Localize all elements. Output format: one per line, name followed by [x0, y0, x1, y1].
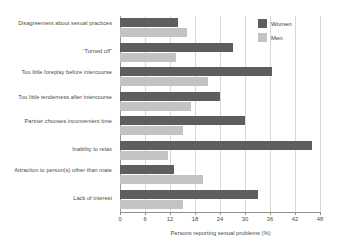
bar-group [120, 67, 320, 92]
category-label: Too little foreplay before intercourse [0, 69, 112, 76]
bar-women [120, 92, 220, 101]
bar-women [120, 18, 178, 27]
tick-mark-42 [295, 212, 296, 215]
category-label: “Turned off” [0, 48, 112, 55]
bar-men [120, 151, 168, 160]
bar-women [120, 116, 245, 125]
tick-label-24: 24 [208, 216, 232, 222]
bar-men [120, 102, 191, 111]
tick-mark-6 [145, 212, 146, 215]
category-axis-labels: Disagreement about sexual practices“Turn… [0, 16, 116, 212]
tick-mark-0 [120, 212, 121, 215]
bar-group [120, 165, 320, 190]
bar-group [120, 190, 320, 215]
tick-mark-24 [220, 212, 221, 215]
x-axis-title: Persons reporting sexual problems (%) [120, 230, 321, 236]
legend-label: Women [271, 21, 292, 27]
tick-label-36: 36 [258, 216, 282, 222]
tick-mark-36 [270, 212, 271, 215]
bar-women [120, 67, 272, 76]
tick-mark-12 [170, 212, 171, 215]
tick-label-42: 42 [283, 216, 307, 222]
bar-women [120, 165, 174, 174]
tick-label-48: 48 [308, 216, 332, 222]
category-label: Attraction to person(s) other than mate [0, 167, 112, 174]
tick-mark-30 [245, 212, 246, 215]
tick-mark-18 [195, 212, 196, 215]
bar-men [120, 175, 203, 184]
bar-group [120, 116, 320, 141]
legend-item-women[interactable]: Women [258, 18, 292, 29]
category-label: Too little tenderness after intercourse [0, 94, 112, 101]
bar-men [120, 28, 187, 37]
bar-group [120, 92, 320, 117]
category-label: Inability to relax [0, 146, 112, 153]
category-label: Lack of interest [0, 195, 112, 202]
tick-label-6: 6 [133, 216, 157, 222]
tick-mark-48 [320, 212, 321, 215]
bar-women [120, 190, 258, 199]
bar-chart: Disagreement about sexual practices“Turn… [0, 0, 341, 246]
bar-men [120, 53, 176, 62]
category-label: Partner chooses inconvenient time [0, 118, 112, 125]
legend: WomenMen [258, 18, 292, 46]
legend-swatch-icon [258, 19, 267, 28]
tick-label-12: 12 [158, 216, 182, 222]
bar-women [120, 141, 312, 150]
tick-label-30: 30 [233, 216, 257, 222]
tick-label-0: 0 [108, 216, 132, 222]
bar-group [120, 43, 320, 68]
category-label: Disagreement about sexual practices [0, 20, 112, 27]
legend-item-men[interactable]: Men [258, 32, 292, 43]
bar-men [120, 77, 208, 86]
bar-men [120, 126, 183, 135]
tick-label-18: 18 [183, 216, 207, 222]
gridline-48 [320, 16, 321, 212]
bar-group [120, 141, 320, 166]
legend-label: Men [271, 35, 283, 41]
legend-swatch-icon [258, 33, 267, 42]
bar-men [120, 200, 183, 209]
bar-women [120, 43, 233, 52]
